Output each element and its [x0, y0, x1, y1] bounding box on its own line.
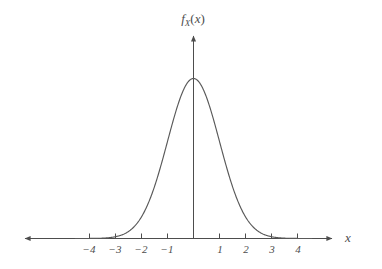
normal-distribution-figure: −4 −3 −2 −1 1 2 3 4 x fX(x)	[0, 0, 382, 269]
x-tick-label-pos1: 1	[217, 243, 223, 255]
plot-canvas	[0, 0, 382, 269]
x-axis-label: x	[345, 230, 351, 246]
x-tick-label-pos3: 3	[269, 243, 275, 255]
y-axis-label: fX(x)	[181, 11, 205, 28]
x-tick-label-pos2: 2	[243, 243, 249, 255]
x-tick-label-neg3: −3	[109, 243, 122, 255]
x-tick-label-neg4: −4	[83, 243, 96, 255]
x-tick-label-pos4: 4	[295, 243, 301, 255]
x-tick-label-neg2: −2	[135, 243, 148, 255]
y-axis-label-paren-close: )	[200, 11, 204, 26]
x-tick-label-neg1: −1	[161, 243, 174, 255]
